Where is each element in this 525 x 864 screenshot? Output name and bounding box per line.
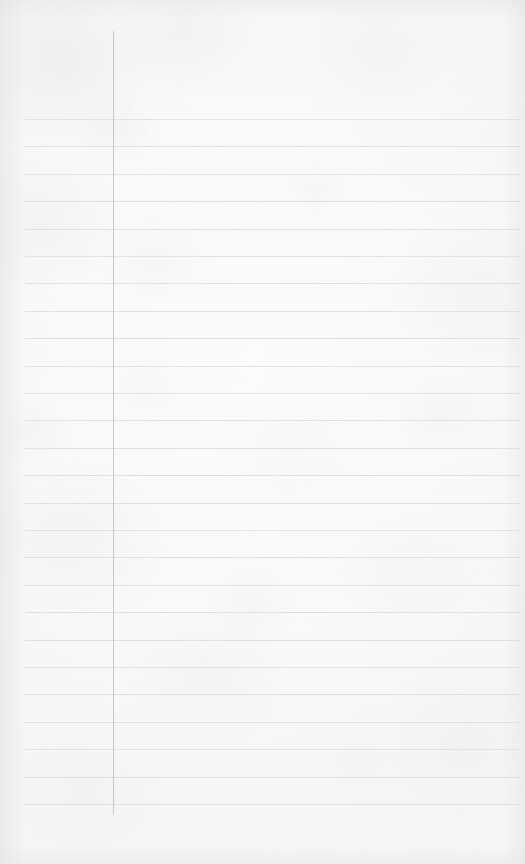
notebook-page — [0, 0, 525, 864]
writing-area[interactable] — [114, 119, 520, 804]
rule-line — [25, 804, 520, 805]
